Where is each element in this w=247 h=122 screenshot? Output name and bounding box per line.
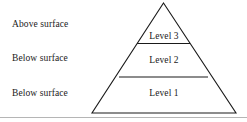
side-label-below-surface-middle: Below surface [12,53,68,63]
side-label-above-surface: Above surface [12,19,68,29]
pyramid-tier-label-level-1: Level 1 [138,88,190,98]
pyramid-diagram: Above surface Below surface Below surfac… [0,0,247,122]
pyramid-tier-label-level-3: Level 3 [139,31,189,41]
side-label-below-surface-bottom: Below surface [12,88,68,98]
pyramid-tier-label-level-2: Level 2 [139,55,189,65]
